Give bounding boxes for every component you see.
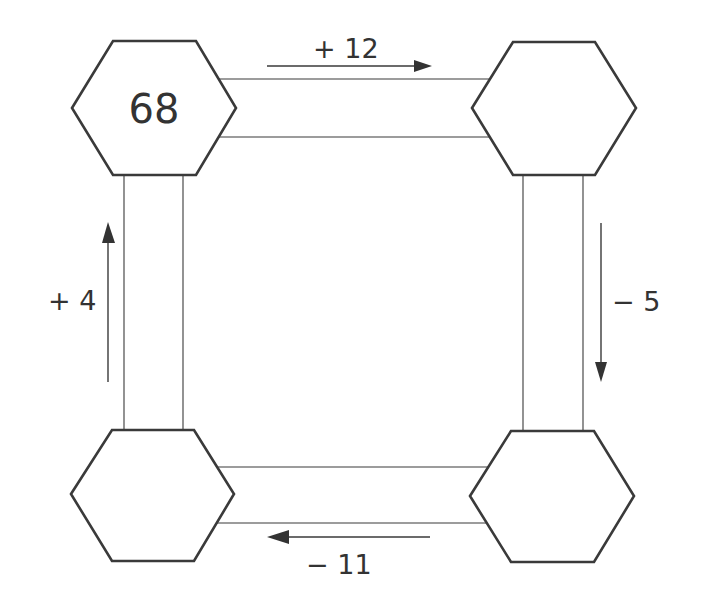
- connector-bottom: [214, 467, 490, 523]
- connector-left: [124, 175, 183, 430]
- arrow-left-icon: [267, 530, 430, 544]
- operation-label-top: + 12: [313, 35, 379, 62]
- operation-label-bottom: − 11: [306, 551, 372, 578]
- connector-right: [523, 175, 583, 431]
- hexagon-bottom-right: [470, 431, 634, 562]
- arrow-down-icon: [595, 223, 607, 382]
- hexagon-bottom-left: [71, 430, 234, 561]
- connector-top: [215, 79, 492, 137]
- operation-label-right: − 5: [612, 288, 660, 315]
- operation-label-left: + 4: [48, 287, 96, 314]
- arrow-up-icon: [102, 222, 115, 382]
- hexagon-top-right: [472, 42, 636, 175]
- hexagon-top-left-value: 68: [74, 89, 234, 129]
